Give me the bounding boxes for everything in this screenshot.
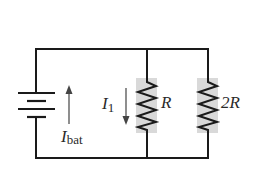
- resistor-2r-icon: [197, 78, 218, 133]
- branch-current-arrow-icon: [123, 88, 130, 125]
- resistor-r-icon: [136, 78, 157, 133]
- branch-current-label: I1: [101, 94, 114, 115]
- resistor-2r-label: 2R: [221, 93, 241, 112]
- battery-current-arrow-icon: [66, 85, 73, 124]
- battery-icon: [18, 93, 55, 117]
- circuit-diagram: Ibat I1 R 2R: [0, 0, 262, 177]
- resistor-r-label: R: [160, 93, 172, 112]
- battery-current-label: Ibat: [60, 127, 83, 147]
- top-wire: [36, 49, 208, 93]
